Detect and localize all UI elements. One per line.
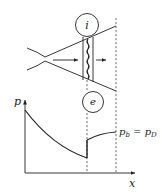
shock-nozzle-diagram: i e p x pb = pD bbox=[0, 0, 162, 195]
x-axis-label: x bbox=[129, 177, 136, 190]
nozzle-wall-lower bbox=[45, 61, 116, 91]
pressure-curve-upstream bbox=[25, 110, 87, 158]
nozzle-throat-lower bbox=[27, 61, 45, 70]
state-i-marker: i bbox=[76, 14, 99, 37]
state-e-label: e bbox=[90, 96, 96, 107]
nozzle bbox=[27, 26, 116, 91]
normal-shock bbox=[83, 37, 93, 82]
exit-pressure-label: pb = pD bbox=[119, 126, 157, 139]
state-e-marker: e bbox=[83, 92, 104, 113]
shock-wave-icon bbox=[87, 39, 89, 79]
nozzle-throat-upper bbox=[27, 48, 45, 57]
state-i-label: i bbox=[85, 19, 89, 32]
y-axis-label: p bbox=[14, 95, 21, 108]
pressure-curve-downstream bbox=[87, 132, 116, 140]
